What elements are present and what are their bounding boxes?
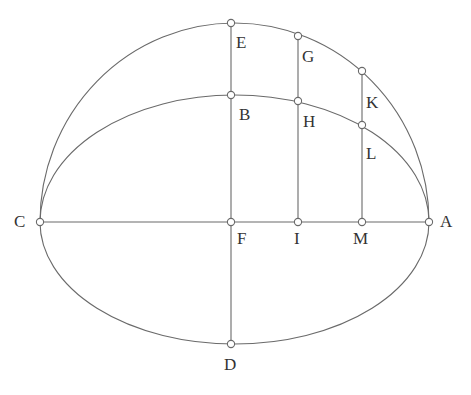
label-F: F	[237, 229, 246, 248]
label-D: D	[224, 355, 236, 374]
point-A	[425, 218, 432, 225]
label-H: H	[303, 112, 315, 131]
lower-arc-CDA	[40, 222, 429, 344]
geometry-diagram: E G K B H L C A F I M D	[0, 0, 471, 395]
point-M	[358, 218, 365, 225]
point-G	[294, 32, 301, 39]
point-I	[294, 218, 301, 225]
label-L: L	[366, 144, 376, 163]
label-M: M	[353, 229, 368, 248]
point-K	[358, 67, 365, 74]
label-G: G	[302, 47, 314, 66]
label-K: K	[366, 93, 379, 112]
label-A: A	[440, 212, 453, 231]
point-D	[227, 340, 234, 347]
point-C	[36, 218, 43, 225]
outer-arc-CEA	[40, 23, 429, 222]
point-L	[358, 121, 365, 128]
point-E	[227, 19, 234, 26]
label-E: E	[236, 33, 246, 52]
label-C: C	[14, 212, 25, 231]
label-I: I	[294, 229, 300, 248]
label-B: B	[239, 105, 250, 124]
point-B	[227, 91, 234, 98]
point-F	[227, 218, 234, 225]
point-H	[294, 97, 301, 104]
